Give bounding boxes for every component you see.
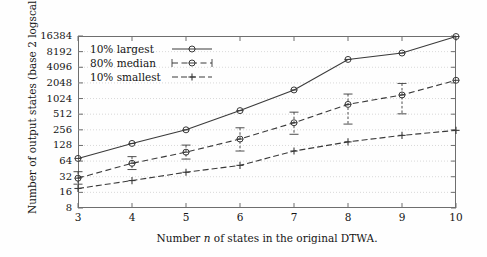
y-axis-tick-label: 8192 bbox=[26, 47, 72, 57]
y-axis-tick-label: 16 bbox=[26, 187, 72, 197]
series-line bbox=[78, 130, 456, 188]
data-point bbox=[452, 127, 459, 134]
x-axis-tick-label: 6 bbox=[225, 212, 255, 223]
data-point bbox=[182, 169, 189, 176]
data-point bbox=[236, 162, 243, 169]
y-axis-tick-label: 256 bbox=[26, 125, 72, 135]
x-axis-tick-label: 4 bbox=[117, 212, 147, 223]
data-point bbox=[290, 147, 297, 154]
x-axis-tick-label: 3 bbox=[63, 212, 93, 223]
y-axis-tick-label: 512 bbox=[26, 109, 72, 119]
data-point bbox=[344, 138, 351, 145]
x-axis-tick-label: 8 bbox=[333, 212, 363, 223]
legend-label-2: 80% median bbox=[90, 57, 156, 69]
x-axis-tick-label: 10 bbox=[441, 212, 471, 223]
x-axis-tick-label: 9 bbox=[387, 212, 417, 223]
y-axis-tick-label: 32 bbox=[26, 172, 72, 182]
y-axis-tick-label: 1024 bbox=[26, 94, 72, 104]
y-axis-tick-label: 64 bbox=[26, 156, 72, 166]
chart-figure: Number of output states (base 2 logscale… bbox=[0, 0, 487, 257]
y-axis-tick-label: 128 bbox=[26, 140, 72, 150]
x-axis-tick-label: 5 bbox=[171, 212, 201, 223]
data-point bbox=[128, 177, 135, 184]
legend-label-1: 10% largest bbox=[90, 43, 154, 55]
data-point bbox=[74, 185, 81, 192]
y-axis-tick-label: 4096 bbox=[26, 62, 72, 72]
legend-label-3: 10% smallest bbox=[90, 71, 161, 83]
data-point bbox=[398, 132, 405, 139]
y-axis-tick-label: 2048 bbox=[26, 78, 72, 88]
x-axis-tick-label: 7 bbox=[279, 212, 309, 223]
y-axis-tick-label: 16384 bbox=[26, 31, 72, 41]
